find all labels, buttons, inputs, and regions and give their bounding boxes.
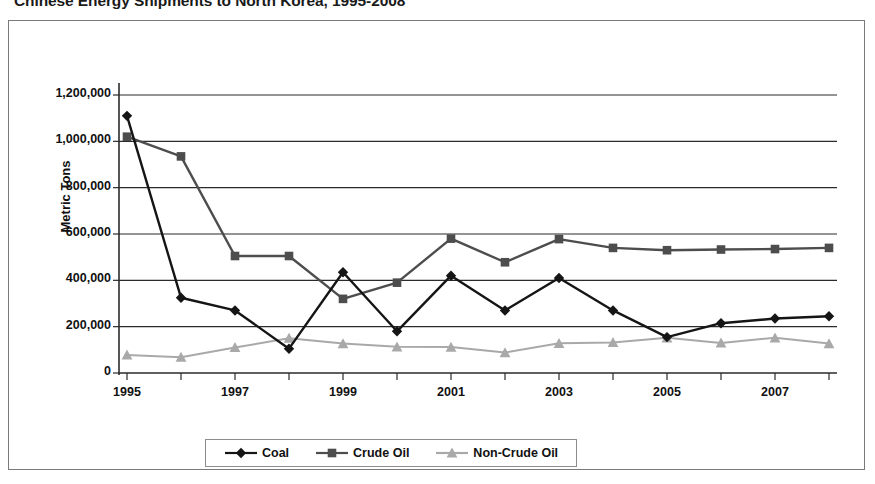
square-marker-icon (328, 449, 337, 458)
legend-item-non-crude-oil[interactable]: Non-Crude Oil (435, 446, 558, 460)
square-marker-icon (285, 252, 294, 261)
triangle-marker-icon (435, 446, 469, 460)
legend-label: Non-Crude Oil (473, 446, 558, 460)
square-marker-icon (231, 252, 240, 261)
x-tick-label: 2005 (632, 385, 702, 399)
diamond-marker-icon (824, 311, 834, 321)
page-title: Chinese Energy Shipments to North Korea,… (14, 0, 834, 13)
square-marker-icon (663, 246, 672, 255)
y-tick-label: 0 (21, 364, 111, 378)
square-marker-icon (123, 132, 132, 141)
x-tick-label: 2007 (740, 385, 810, 399)
square-marker-icon (717, 245, 726, 254)
square-marker-icon (339, 295, 348, 304)
legend-item-coal[interactable]: Coal (224, 446, 289, 460)
series-line-coal (127, 116, 829, 349)
diamond-marker-icon (608, 305, 618, 315)
square-marker-icon (315, 446, 349, 460)
legend-item-crude-oil[interactable]: Crude Oil (315, 446, 409, 460)
square-marker-icon (771, 245, 780, 254)
chart-legend: CoalCrude OilNon-Crude Oil (205, 439, 577, 467)
diamond-marker-icon (176, 293, 186, 303)
y-axis-title: Metric Tons (58, 127, 73, 267)
x-tick-label: 1995 (92, 385, 162, 399)
series-line-crude-oil (127, 137, 829, 299)
diamond-marker-icon (122, 111, 132, 121)
square-marker-icon (825, 244, 834, 253)
legend-label: Crude Oil (353, 446, 409, 460)
x-tick-label: 2003 (524, 385, 594, 399)
diamond-marker-icon (224, 446, 258, 460)
y-tick-label: 1,000,000 (21, 132, 111, 146)
square-marker-icon (555, 235, 564, 244)
y-tick-label: 600,000 (21, 225, 111, 239)
x-tick-label: 1997 (200, 385, 270, 399)
x-tick-label: 1999 (308, 385, 378, 399)
chart-frame: Metric Tons 1,200,0001,000,000800,000600… (8, 20, 865, 470)
diamond-marker-icon (554, 273, 564, 283)
diamond-marker-icon (236, 448, 246, 458)
square-marker-icon (609, 244, 618, 253)
square-marker-icon (177, 152, 186, 161)
x-tick-label: 2001 (416, 385, 486, 399)
plot-area (119, 95, 837, 373)
diamond-marker-icon (770, 313, 780, 323)
square-marker-icon (393, 278, 402, 287)
chart-screenshot: Chinese Energy Shipments to North Korea,… (0, 0, 875, 484)
y-tick-label: 200,000 (21, 318, 111, 332)
y-tick-label: 800,000 (21, 179, 111, 193)
square-marker-icon (501, 258, 510, 267)
legend-label: Coal (262, 446, 289, 460)
y-tick-label: 400,000 (21, 271, 111, 285)
plot-svg (119, 95, 837, 373)
y-tick-label: 1,200,000 (21, 86, 111, 100)
square-marker-icon (447, 234, 456, 243)
